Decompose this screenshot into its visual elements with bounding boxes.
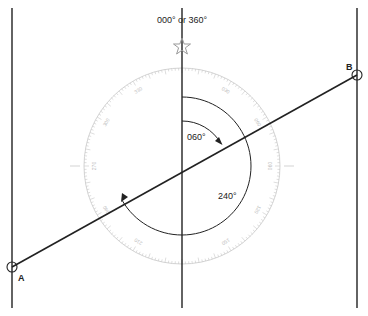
angle-arc-240: [122, 97, 251, 235]
compass-rose-label: 060: [253, 117, 262, 127]
compass-rose-label: 030: [221, 85, 231, 94]
course-line-a-b: [12, 75, 357, 267]
compass-rose-label: 090: [267, 162, 273, 171]
angle-060-label: 060°: [187, 132, 206, 142]
arrowhead-060: [215, 137, 223, 145]
point-a-label: A: [18, 273, 25, 283]
compass-rose-label: 150: [221, 237, 231, 246]
compass-rose-label: 210: [133, 237, 143, 246]
compass-rose-label: 270: [91, 162, 97, 171]
arrowhead-240: [121, 193, 128, 202]
north-label: 000° or 360°: [157, 15, 208, 25]
compass-rose-label: 300: [101, 117, 110, 127]
angle-240-label: 240°: [218, 191, 237, 201]
compass-rose-label: 120: [253, 205, 262, 215]
bearing-diagram: 030060090120150210240270300330 000° or 3…: [0, 0, 368, 316]
compass-rose-label: 330: [133, 85, 143, 94]
point-b-label: B: [346, 62, 353, 72]
